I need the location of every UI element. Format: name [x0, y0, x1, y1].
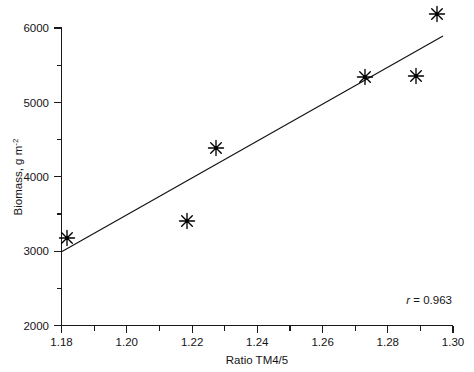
data-point-marker: [180, 214, 195, 229]
x-tick-label: 1.28: [377, 336, 399, 348]
x-axis-title: Ratio TM4/5: [226, 354, 288, 366]
y-tick-label: 5000: [23, 97, 49, 109]
y-axis-title-main: Biomass, g m: [12, 146, 24, 216]
y-tick-label: 6000: [23, 22, 49, 34]
scatter-plot-figure: 6000 5000 4000 3000 2000 1.18: [0, 0, 474, 372]
x-tick-label: 1.20: [116, 336, 138, 348]
y-axis-title: Biomass, g m-2: [11, 138, 24, 215]
plot-canvas: 6000 5000 4000 3000 2000 1.18: [0, 0, 474, 372]
data-points: [60, 7, 445, 246]
y-tick-label: 3000: [23, 245, 49, 257]
y-axis-tick-labels: 6000 5000 4000 3000 2000: [23, 22, 49, 332]
correlation-annotation: r = 0.963: [406, 294, 452, 306]
data-point-marker: [60, 231, 75, 246]
data-point-marker: [409, 69, 424, 84]
y-axis-major-ticks: [54, 28, 62, 326]
x-tick-label: 1.22: [181, 336, 203, 348]
data-point-marker: [209, 141, 224, 156]
x-tick-label: 1.24: [246, 336, 269, 348]
data-point-marker: [358, 70, 373, 85]
x-tick-label: 1.26: [311, 336, 333, 348]
data-point-marker: [430, 7, 445, 22]
x-tick-label: 1.30: [442, 336, 464, 348]
y-axis-title-superscript: -2: [11, 138, 20, 146]
regression-fit-line: [62, 36, 443, 252]
x-axis-major-ticks: [62, 326, 454, 334]
correlation-value: = 0.963: [410, 294, 452, 306]
y-tick-label: 2000: [23, 320, 49, 332]
svg-text:Biomass, g m-2: Biomass, g m-2: [11, 138, 24, 215]
y-tick-label: 4000: [23, 171, 49, 183]
x-tick-label: 1.18: [50, 336, 72, 348]
x-axis-tick-labels: 1.18 1.20 1.22 1.24 1.26 1.28 1.30: [50, 336, 464, 348]
